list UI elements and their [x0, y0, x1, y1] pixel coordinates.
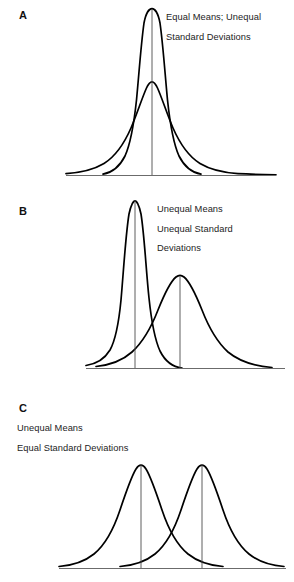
panel-b-plot	[0, 196, 294, 392]
panel-c: C Unequal Means Equal Standard Deviation…	[0, 392, 294, 582]
panel-a-plot	[0, 0, 294, 196]
panel-a: A Equal Means; Unequal Standard Deviatio…	[0, 0, 294, 196]
panel-c-plot	[0, 392, 294, 582]
panel-b: B Unequal Means Unequal Standard Deviati…	[0, 196, 294, 392]
curve-tall-narrow-b	[86, 201, 182, 368]
distribution-figure: A Equal Means; Unequal Standard Deviatio…	[0, 0, 294, 582]
